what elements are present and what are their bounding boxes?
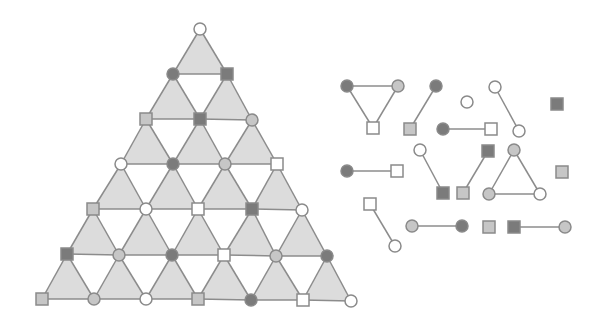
white-square-node [391,165,403,177]
dark-square-node [508,221,520,233]
dark-square-node [437,187,449,199]
lattice-face [67,209,119,255]
light-circle-node [406,220,418,232]
dark-circle-node [430,80,442,92]
white-circle-node [140,203,152,215]
diagram-canvas [0,0,606,328]
white-square-node [367,122,379,134]
dark-circle-node [437,123,449,135]
dark-square-node [551,98,563,110]
lattice-triangle-faces [42,29,351,301]
white-square-node [297,294,309,306]
light-circle-node [113,249,125,261]
white-square-node [364,198,376,210]
dark-square-node [61,248,73,260]
white-circle-node [345,295,357,307]
lattice-face [200,74,252,120]
component-nodes [341,80,571,252]
dark-circle-node [341,165,353,177]
white-circle-node [513,125,525,137]
light-circle-node [392,80,404,92]
lattice-face [93,164,146,209]
dark-circle-node [341,80,353,92]
dark-square-node [482,145,494,157]
dark-circle-node [167,68,179,80]
lattice-face [119,209,172,255]
white-square-node [192,203,204,215]
light-circle-node [270,250,282,262]
lattice-face [252,164,302,210]
lattice-edge [67,254,119,255]
light-square-node [87,203,99,215]
lattice-face [276,210,327,256]
lattice-edge [200,119,252,120]
dark-circle-node [245,294,257,306]
white-circle-node [461,96,473,108]
white-circle-node [296,204,308,216]
light-square-node [140,113,152,125]
light-circle-node [483,188,495,200]
white-circle-node [489,81,501,93]
dark-square-node [194,113,206,125]
lattice-face [172,209,224,255]
light-square-node [192,293,204,305]
white-circle-node [534,188,546,200]
lattice-edge [224,255,276,256]
light-square-node [483,221,495,233]
lattice-edge [198,299,251,300]
component-edge [514,150,540,194]
white-circle-node [194,23,206,35]
white-square-node [218,249,230,261]
light-circle-node [88,293,100,305]
lattice-face [146,164,198,209]
light-square-node [457,187,469,199]
white-square-node [485,123,497,135]
light-square-node [556,166,568,178]
light-square-node [36,293,48,305]
white-circle-node [140,293,152,305]
dark-square-node [221,68,233,80]
dark-square-node [246,203,258,215]
light-circle-node [559,221,571,233]
dark-circle-node [167,158,179,170]
lattice-edge [252,209,302,210]
white-square-node [271,158,283,170]
white-circle-node [414,144,426,156]
light-circle-node [508,144,520,156]
light-circle-node [246,114,258,126]
graph-diagram [0,0,606,328]
dark-circle-node [166,249,178,261]
light-circle-node [219,158,231,170]
white-circle-node [389,240,401,252]
dark-circle-node [321,250,333,262]
lattice-edge [303,300,351,301]
lattice-face [224,209,276,256]
component-edges [347,86,565,246]
component-edge [495,87,519,131]
white-circle-node [115,158,127,170]
dark-circle-node [456,220,468,232]
light-square-node [404,123,416,135]
